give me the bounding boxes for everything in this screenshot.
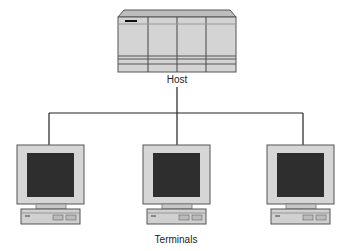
terminal-3-icon <box>267 145 334 224</box>
terminal-1-icon <box>17 145 84 224</box>
host-label: Host <box>147 74 207 85</box>
terminals-label: Terminals <box>136 234 216 245</box>
terminal-2-icon <box>143 145 210 224</box>
host-mainframe-icon <box>118 10 236 72</box>
network-connections <box>49 87 303 146</box>
diagram-canvas <box>0 0 351 251</box>
